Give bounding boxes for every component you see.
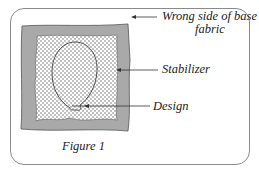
wrong-side-arrowhead [131,15,136,19]
stabilizer-label: Stabilizer [162,63,210,76]
stabilizer [35,35,118,121]
design-label: Design [153,100,188,113]
wrong-side-label-cont: fabric [195,23,225,36]
figure-caption: Figure 1 [62,140,105,153]
